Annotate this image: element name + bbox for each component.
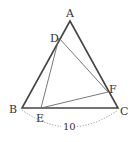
measure-label: 10 [63,121,76,132]
label-a: A [65,7,75,20]
label-c: C [120,105,128,118]
triangle-abc [22,21,118,108]
label-e: E [36,112,44,125]
label-f: F [109,83,117,96]
label-b: B [9,103,17,116]
label-d: D [50,32,59,45]
triangle-diagram: A D B E F C 10 [0,0,136,142]
